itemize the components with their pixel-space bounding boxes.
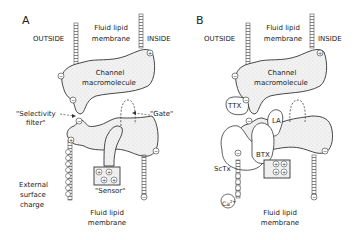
membrane-top-b-line1: Fluid lipid: [258, 24, 308, 32]
membrane-top-a-line1: Fluid lipid: [86, 24, 136, 32]
surface-charge-line2: surface: [20, 191, 46, 199]
svg-text:−: −: [244, 97, 248, 103]
btx-label: BTX: [256, 151, 270, 159]
la-label: LA: [272, 117, 281, 125]
surface-charge-line3: charge: [20, 201, 44, 209]
svg-text:−: −: [236, 150, 240, 156]
svg-text:−: −: [142, 194, 146, 200]
svg-text:+: +: [274, 169, 278, 175]
panel-a-letter: A: [22, 14, 30, 27]
selectivity-filter-label-line1: "Selectivity: [16, 110, 56, 118]
selectivity-filter-label-line2: filter": [26, 119, 46, 127]
svg-text:−: −: [77, 118, 81, 124]
membrane-top-a-line2: membrane: [86, 35, 136, 43]
gate-label: "Gate": [150, 110, 173, 118]
panel-b-letter: B: [196, 14, 204, 27]
svg-text:+: +: [282, 161, 286, 167]
svg-text:+: +: [274, 161, 278, 167]
membrane-bottom-a-line1: Fluid lipid: [82, 209, 132, 217]
calcium-ion-label: Ca2+: [222, 198, 236, 208]
ttx-label: TTX: [228, 102, 241, 110]
svg-text:−: −: [312, 194, 316, 200]
svg-text:+: +: [69, 137, 73, 143]
outside-label-b: OUTSIDE: [204, 35, 235, 43]
channel-b-line2: macromolecule: [246, 79, 316, 87]
svg-text:+: +: [318, 50, 322, 56]
membrane-bottom-b-line2: membrane: [255, 219, 305, 227]
channel-a-line2: macromolecule: [74, 79, 144, 87]
svg-text:−: −: [154, 148, 158, 154]
channel-b-line1: Channel: [252, 69, 312, 77]
svg-text:−: −: [71, 97, 75, 103]
svg-text:−: −: [59, 73, 63, 79]
sctx-label: ScTx: [214, 165, 231, 173]
svg-text:+: +: [148, 50, 152, 56]
svg-text:+: +: [97, 169, 101, 175]
inside-label-b: INSIDE: [318, 35, 342, 43]
panel-b: ++ ++ + − − − − − −: [221, 14, 333, 208]
svg-text:+: +: [282, 169, 286, 175]
outside-label-a: OUTSIDE: [33, 35, 64, 43]
surface-charge-line1: External: [19, 181, 48, 189]
membrane-top-b-line2: membrane: [258, 35, 308, 43]
sensor-label: "Sensor": [95, 187, 125, 195]
svg-text:+: +: [112, 177, 116, 183]
svg-text:−: −: [233, 73, 237, 79]
svg-text:+: +: [107, 169, 111, 175]
inside-label-a: INSIDE: [147, 35, 171, 43]
membrane-bottom-a-line2: membrane: [82, 219, 132, 227]
channel-a-line1: Channel: [80, 69, 140, 77]
svg-text:−: −: [247, 118, 251, 124]
svg-text:−: −: [323, 148, 327, 154]
svg-text:+: +: [102, 177, 106, 183]
membrane-bottom-b-line1: Fluid lipid: [255, 209, 305, 217]
